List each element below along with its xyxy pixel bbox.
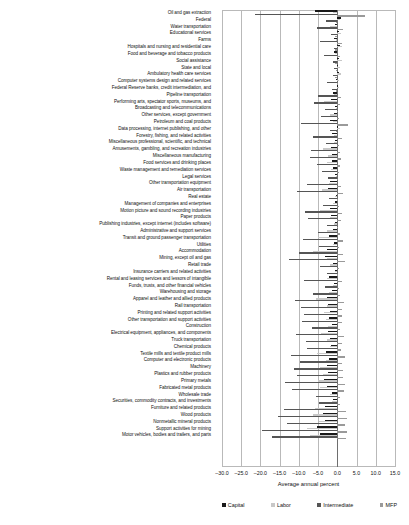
bar-intermediate (304, 280, 338, 281)
category-label: Motion picture and sound recording indus… (0, 208, 214, 215)
x-tick-label: 15.0 (390, 470, 400, 476)
bar-intermediate (272, 436, 337, 437)
bar-intermediate (289, 259, 337, 260)
bar-group (222, 256, 395, 263)
bar-group (222, 65, 395, 72)
category-label: Apparel and leather and allied products (0, 296, 214, 303)
category-label: Air transportation (0, 187, 214, 194)
bar-group (222, 181, 395, 188)
bar-labor (337, 128, 339, 129)
bar-intermediate (301, 123, 338, 124)
bar-intermediate (329, 198, 337, 199)
legend-item-mfp[interactable]: MFP (380, 502, 397, 508)
bar-intermediate (307, 184, 338, 185)
category-label: Food services and drinking places (0, 160, 214, 167)
category-label: Textile mills and textile product mills (0, 351, 214, 358)
bar-labor (337, 60, 341, 61)
bar-group (222, 208, 395, 215)
category-label: Oil and gas extraction (0, 10, 214, 17)
bar-labor (337, 73, 341, 74)
bar-group (222, 392, 395, 399)
category-label: Mining, except oil and gas (0, 255, 214, 262)
bar-intermediate (307, 348, 337, 349)
bar-intermediate (308, 218, 337, 219)
category-label: Data processing, internet publishing, an… (0, 126, 214, 133)
bar-intermediate (302, 321, 337, 322)
category-label: Retail trade (0, 262, 214, 269)
bar-group (222, 24, 395, 31)
bar-intermediate (327, 225, 338, 226)
bar-group (222, 358, 395, 365)
bar-labor (337, 46, 342, 47)
bar-group (222, 378, 395, 385)
category-label: Other transportation equipment (0, 180, 214, 187)
bar-intermediate (295, 300, 337, 301)
category-label: Construction (0, 323, 214, 330)
chart-legend: CapitalLaborIntermediateMFP (222, 502, 397, 508)
bar-group (222, 174, 395, 181)
bar-group (222, 344, 395, 351)
bar-labor (337, 80, 339, 81)
legend-label: MFP (386, 502, 397, 508)
category-label: Printing and related support activities (0, 310, 214, 317)
bar-group (222, 99, 395, 106)
category-label: Federal (0, 17, 214, 24)
category-label: Other services, except government (0, 112, 214, 119)
category-label: Social assistance (0, 58, 214, 65)
bar-intermediate (322, 171, 337, 172)
bar-labor (337, 67, 340, 68)
bar-intermediate (325, 286, 337, 287)
category-label: Truck transportation (0, 337, 214, 344)
bar-intermediate (326, 143, 338, 144)
category-label: Pipeline transportation (0, 92, 214, 99)
bar-intermediate (319, 402, 337, 403)
x-tick-label: –30.0 (215, 470, 228, 476)
legend-label: Labor (277, 502, 291, 508)
category-label: Miscellaneous professional, scientific, … (0, 139, 214, 146)
bar-group (222, 92, 395, 99)
category-label: Petroleum and coal products (0, 119, 214, 126)
bar-group (222, 194, 395, 201)
bar-intermediate (317, 164, 338, 165)
bar-intermediate (320, 41, 338, 42)
bar-intermediate (284, 409, 338, 410)
category-label: Waste management and remediation service… (0, 167, 214, 174)
category-label: Machinery (0, 364, 214, 371)
bar-intermediate (327, 273, 337, 274)
bar-group (222, 126, 395, 133)
x-tick-label: –25.0 (235, 470, 248, 476)
category-label: Performing arts, spectator sports, museu… (0, 99, 214, 106)
category-label: Rail transportation (0, 303, 214, 310)
bar-intermediate (294, 368, 338, 369)
bar-group (222, 112, 395, 119)
bar-group (222, 85, 395, 92)
bar-group (222, 228, 395, 235)
category-label: Educational services (0, 30, 214, 37)
x-axis-tick-labels: –30.0–25.0–20.0–15.0–10.0–5.00.05.010.01… (222, 470, 395, 480)
bar-intermediate (311, 150, 337, 151)
bar-group (222, 187, 395, 194)
bar-intermediate (262, 430, 337, 431)
bar-group (222, 215, 395, 222)
category-label: State and local (0, 65, 214, 72)
category-label: Warehousing and storage (0, 289, 214, 296)
bar-intermediate (319, 246, 337, 247)
legend-item-capital[interactable]: Capital (222, 502, 245, 508)
bar-group (222, 269, 395, 276)
x-tick-label: –15.0 (273, 470, 286, 476)
category-label: Administrative and support services (0, 228, 214, 235)
bar-group (222, 351, 395, 358)
bar-intermediate (292, 389, 337, 390)
category-label: Management of companies and enterprises (0, 201, 214, 208)
bar-group (222, 221, 395, 228)
category-label: Computer systems design and related serv… (0, 78, 214, 85)
category-label: Computer and electronic products (0, 357, 214, 364)
bar-group (222, 133, 395, 140)
bar-group (222, 160, 395, 167)
legend-item-labor[interactable]: Labor (271, 502, 291, 508)
category-label: Hospitals and nursing and residential ca… (0, 44, 214, 51)
category-label: Ambulatory health care services (0, 71, 214, 78)
bar-intermediate (297, 191, 337, 192)
category-label: Funds, trusts, and other financial vehic… (0, 283, 214, 290)
legend-item-intermediate[interactable]: Intermediate (317, 502, 353, 508)
